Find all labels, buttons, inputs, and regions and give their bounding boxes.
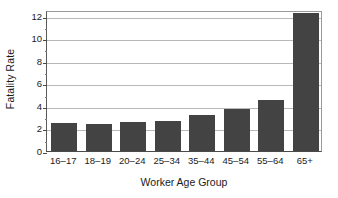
x-axis-title-text: Worker Age Group <box>141 176 228 188</box>
x-axis-tick-labels: 16–1718–1920–2425–3435–4445–5455–6465+ <box>46 155 322 171</box>
x-tick-label-65+: 65+ <box>288 155 323 167</box>
bars <box>47 12 321 151</box>
y-tick-label-2: 2 <box>20 124 42 134</box>
x-tick-label-45–54: 45–54 <box>219 155 254 167</box>
y-axis-tick-labels: 024681012 <box>20 0 42 158</box>
plot-area <box>46 11 322 152</box>
bar-65+ <box>293 13 319 151</box>
x-tick-label-16–17: 16–17 <box>46 155 81 167</box>
bar-16–17 <box>51 123 77 151</box>
bar-18–19 <box>86 124 112 151</box>
x-tick-label-18–19: 18–19 <box>81 155 116 167</box>
y-tick-major-0 <box>43 153 47 154</box>
x-tick-label-20–24: 20–24 <box>115 155 150 167</box>
gridline-0 <box>47 153 321 154</box>
y-tick-label-4: 4 <box>20 102 42 112</box>
bar-35–44 <box>189 115 215 151</box>
bar-45–54 <box>224 109 250 151</box>
y-tick-label-6: 6 <box>20 79 42 89</box>
bar-chart: Fatality Rate 024681012 16–1718–1920–242… <box>0 0 338 198</box>
y-axis-title: Fatality Rate <box>0 0 20 158</box>
y-axis-title-text: Fatality Rate <box>4 49 16 109</box>
bar-25–34 <box>155 121 181 151</box>
x-tick-label-25–34: 25–34 <box>150 155 185 167</box>
y-tick-label-0: 0 <box>20 147 42 157</box>
y-tick-label-12: 12 <box>20 12 42 22</box>
x-axis-title: Worker Age Group <box>46 176 322 188</box>
bar-55–64 <box>258 100 284 151</box>
y-tick-label-8: 8 <box>20 57 42 67</box>
y-tick-label-10: 10 <box>20 34 42 44</box>
x-tick-label-55–64: 55–64 <box>253 155 288 167</box>
x-tick-label-35–44: 35–44 <box>184 155 219 167</box>
bar-20–24 <box>120 122 146 151</box>
